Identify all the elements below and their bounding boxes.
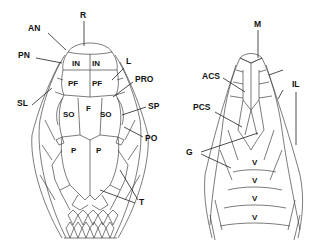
label-infralabial: IL <box>292 79 300 89</box>
label-anterior-nasal: AN <box>28 23 40 33</box>
label-postocular: PO <box>145 133 158 143</box>
scale-ventral-4: V <box>252 213 258 222</box>
scale-prefrontal-right: PF <box>92 79 102 88</box>
scale-ventral-1: V <box>252 158 258 167</box>
label-gular: G <box>186 147 193 157</box>
label-preocular: PRO <box>135 74 154 84</box>
scale-supraocular-right: SO <box>100 110 112 119</box>
label-loreal: L <box>126 56 131 66</box>
scale-parietal-left: P <box>71 146 77 155</box>
label-temporal: T <box>139 197 145 207</box>
rostral-scale <box>68 43 112 54</box>
scale-ventral-2: V <box>252 176 258 185</box>
dorsal-head-view: IN IN PF PF F SO SO P P R AN PN L PRO SL… <box>17 10 160 238</box>
scale-prefrontal-left: PF <box>68 79 78 88</box>
scale-parietal-right: P <box>96 146 102 155</box>
mental-scale <box>240 54 262 64</box>
ventral-head-view: V V V V M ACS IL PCS G <box>186 19 303 240</box>
scale-supraocular-left: SO <box>63 110 75 119</box>
label-anterior-chin-shield: ACS <box>202 71 220 81</box>
dorsal-body-scales <box>66 210 118 238</box>
scale-ventral-3: V <box>252 194 258 203</box>
label-supraocular-sp: SP <box>148 101 160 111</box>
label-rostral: R <box>80 10 86 20</box>
scale-internasal-left: IN <box>72 59 80 68</box>
snake-head-scales-diagram: IN IN PF PF F SO SO P P R AN PN L PRO SL… <box>0 0 325 251</box>
label-posterior-chin-shield: PCS <box>193 102 211 112</box>
label-supralabial: SL <box>17 98 28 108</box>
label-posterior-nasal: PN <box>18 50 30 60</box>
scale-internasal-right: IN <box>92 59 100 68</box>
scale-frontal: F <box>86 104 91 113</box>
label-mental: M <box>254 19 261 29</box>
